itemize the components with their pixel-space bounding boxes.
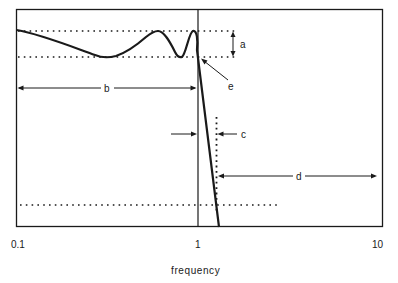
x-tick-label-10: 10	[372, 239, 384, 250]
annotation-a-arrow	[231, 32, 236, 57]
annotation-e-arrow	[201, 59, 228, 81]
annotation-a-label: a	[240, 39, 246, 50]
filter-response-diagram: a b c d e 0.1 1 10 frequency	[0, 0, 398, 283]
x-tick-label-1: 1	[195, 239, 201, 250]
annotation-d-label: d	[296, 171, 302, 182]
annotation-e-label: e	[228, 81, 234, 92]
x-axis-title: frequency	[171, 265, 220, 276]
x-tick-label-0-1: 0.1	[11, 239, 25, 250]
plot-frame	[17, 10, 383, 227]
annotation-c-label: c	[241, 129, 246, 140]
annotation-b-label: b	[104, 83, 110, 94]
annotation-c-arrows	[171, 132, 237, 137]
response-curve	[17, 30, 220, 227]
